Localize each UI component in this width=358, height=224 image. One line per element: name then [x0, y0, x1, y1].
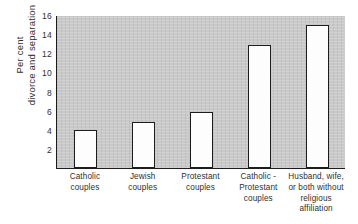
bar [248, 45, 271, 168]
y-axis-tick-labels: 246810121416 [30, 0, 52, 224]
bar-chart-figure: Per cent divorce and separation 24681012… [0, 0, 358, 224]
bars-layer [57, 16, 345, 168]
y-axis-tick-label: 16 [30, 12, 52, 21]
x-axis-category-label-line: Catholic - [225, 172, 291, 183]
x-axis-category-label: Catholiccouples [52, 172, 118, 194]
y-axis-tick-label: 8 [30, 88, 52, 97]
x-axis-category-label-line: couples [52, 183, 118, 194]
x-axis-category-label: Husband, wife,or both withoutreligiousaf… [283, 172, 349, 215]
x-axis-category-label-line: Protestant [225, 183, 291, 194]
x-axis-category-label-line: Husband, wife, [283, 172, 349, 183]
y-axis-tick-label: 2 [30, 146, 52, 155]
y-axis-tick-label: 14 [30, 31, 52, 40]
x-axis-category-label: Jewishcouples [110, 172, 176, 194]
x-axis-category-label-line: religious [283, 194, 349, 205]
bar [306, 25, 329, 168]
x-axis-category-label-line: or both without [283, 183, 349, 194]
x-axis-category-label-line: couples [225, 194, 291, 205]
x-axis-category-label-line: Protestant [168, 172, 234, 183]
y-axis-tick-label: 6 [30, 107, 52, 116]
x-axis-category-labels: CatholiccouplesJewishcouplesProtestantco… [56, 172, 345, 224]
y-axis-tick-label: 4 [30, 127, 52, 136]
bar [190, 112, 213, 168]
y-axis-tick-label: 12 [30, 50, 52, 59]
plot-area [56, 16, 345, 169]
bar [132, 122, 155, 168]
y-axis-title-line-1: Per cent [14, 37, 26, 74]
x-axis-category-label-line: Jewish [110, 172, 176, 183]
x-axis-category-label-line: Catholic [52, 172, 118, 183]
x-axis-category-label: Catholic -Protestantcouples [225, 172, 291, 204]
x-axis-category-label: Protestantcouples [168, 172, 234, 194]
x-axis-category-label-line: affiliation [283, 204, 349, 215]
bar [74, 130, 97, 168]
y-axis-tick-label: 10 [30, 69, 52, 78]
x-axis-category-label-line: couples [168, 183, 234, 194]
x-axis-category-label-line: couples [110, 183, 176, 194]
